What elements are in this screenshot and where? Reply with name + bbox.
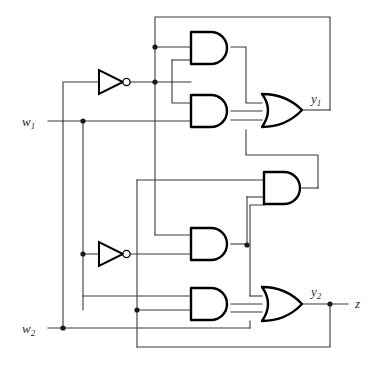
junction-dot [134, 307, 139, 312]
wire-or2-upper-riser [250, 205, 264, 296]
junction-dot [244, 242, 249, 247]
not-gate-2[interactable] [99, 242, 130, 266]
and-gate-2[interactable] [191, 95, 227, 127]
wire-w1-to-not1 [63, 82, 99, 121]
junction-dot [80, 251, 85, 256]
label-output-y1: y1 [309, 91, 321, 108]
not-gate-1[interactable] [99, 70, 130, 94]
or-gate-1[interactable] [262, 94, 302, 127]
junction-dot [152, 44, 157, 49]
wire-not1-to-and2 [172, 82, 191, 103]
circuit-canvas: w1 w2 y1 y2 z [0, 0, 384, 368]
logic-circuit-diagram: w1 w2 y1 y2 z [0, 0, 384, 368]
wire-and1-to-or1 [231, 47, 262, 103]
and-gate-4[interactable] [191, 228, 227, 260]
or-gate-2[interactable] [262, 287, 302, 321]
label-input-w2: w2 [22, 321, 36, 338]
and-gate-5[interactable] [191, 288, 227, 320]
and-gate-1[interactable] [191, 32, 227, 64]
wire-y1-feedback-top [155, 17, 330, 110]
junction-dot [327, 301, 332, 306]
junction-dot [80, 118, 85, 123]
junction-dot [152, 79, 157, 84]
label-input-w1: w1 [22, 114, 35, 131]
and-gate-3[interactable] [264, 172, 300, 204]
label-output-y2: y2 [309, 284, 322, 301]
junction-dot [60, 325, 65, 330]
not-gate-2-bubble [123, 250, 130, 257]
label-output-z: z [354, 296, 360, 311]
not-gate-1-bubble [123, 78, 130, 85]
